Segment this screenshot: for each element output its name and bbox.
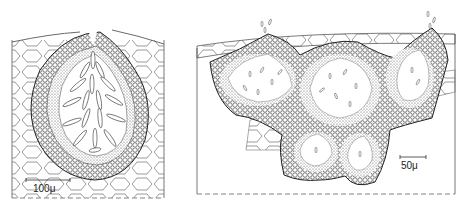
- left-panel: [12, 30, 164, 198]
- scale-label-left: 100μ: [33, 183, 55, 194]
- scale-label-right: 50μ: [401, 160, 418, 171]
- figure-illustration: [0, 0, 461, 210]
